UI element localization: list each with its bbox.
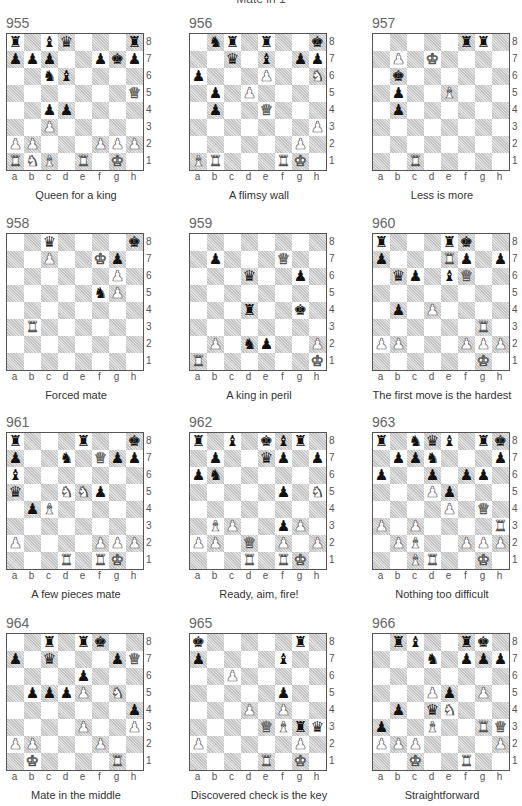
square-b4[interactable] [24, 102, 41, 119]
square-d4[interactable] [241, 102, 258, 119]
white-pawn-icon[interactable]: ♟ [111, 268, 124, 285]
square-e6[interactable] [258, 467, 275, 484]
white-pawn-icon[interactable]: ♟ [111, 535, 124, 552]
square-b2[interactable]: ♟ [24, 136, 41, 153]
black-rook-icon[interactable]: ♜ [192, 433, 205, 450]
black-queen-icon[interactable]: ♛ [226, 51, 239, 68]
square-h5[interactable] [492, 285, 509, 302]
square-c4[interactable] [41, 702, 58, 719]
square-g8[interactable] [292, 234, 309, 251]
square-e4[interactable] [75, 302, 92, 319]
square-a2[interactable]: ♟ [190, 736, 207, 753]
square-c1[interactable] [407, 353, 424, 370]
white-rook-icon[interactable]: ♜ [9, 153, 22, 170]
square-a7[interactable]: ♟ [7, 651, 24, 668]
black-rook-icon[interactable]: ♜ [260, 34, 273, 51]
square-a6[interactable]: ♟ [190, 68, 207, 85]
square-b7[interactable] [390, 651, 407, 668]
square-a8[interactable]: ♜ [190, 433, 207, 450]
square-h3[interactable]: ♟ [126, 719, 143, 736]
white-pawn-icon[interactable]: ♟ [226, 518, 239, 535]
square-b3[interactable] [390, 518, 407, 535]
square-e4[interactable]: ♟ [441, 501, 458, 518]
square-b7[interactable]: ♟ [207, 251, 224, 268]
square-b1[interactable] [207, 353, 224, 370]
black-pawn-icon[interactable]: ♟ [494, 450, 507, 467]
square-a5[interactable] [190, 285, 207, 302]
square-h6[interactable] [126, 467, 143, 484]
square-e5[interactable] [258, 484, 275, 501]
square-b4[interactable] [207, 501, 224, 518]
square-h3[interactable] [126, 319, 143, 336]
square-e3[interactable]: ♛ [258, 719, 275, 736]
square-d7[interactable] [241, 51, 258, 68]
black-pawn-icon[interactable]: ♟ [277, 450, 290, 467]
square-d1[interactable]: ♜ [241, 552, 258, 569]
square-f8[interactable] [458, 433, 475, 450]
black-pawn-icon[interactable]: ♟ [494, 651, 507, 668]
square-d7[interactable]: ♚ [424, 51, 441, 68]
square-f1[interactable]: ♜ [458, 753, 475, 770]
square-c6[interactable] [407, 467, 424, 484]
square-d7[interactable] [241, 251, 258, 268]
square-b7[interactable] [24, 251, 41, 268]
square-a4[interactable] [190, 302, 207, 319]
white-bishop-icon[interactable]: ♝ [209, 518, 222, 535]
square-g1[interactable]: ♚ [292, 753, 309, 770]
white-pawn-icon[interactable]: ♟ [477, 535, 490, 552]
white-pawn-icon[interactable]: ♟ [460, 336, 473, 353]
black-pawn-icon[interactable]: ♟ [26, 501, 39, 518]
square-f3[interactable] [92, 518, 109, 535]
square-f5[interactable] [92, 685, 109, 702]
square-f8[interactable] [92, 34, 109, 51]
black-knight-icon[interactable]: ♞ [426, 450, 439, 467]
white-rook-icon[interactable]: ♜ [409, 153, 422, 170]
square-g1[interactable]: ♚ [109, 552, 126, 569]
square-a5[interactable] [373, 285, 390, 302]
square-g6[interactable]: ♟ [109, 268, 126, 285]
square-c3[interactable]: ♟ [224, 518, 241, 535]
square-g7[interactable] [292, 450, 309, 467]
square-b4[interactable] [207, 702, 224, 719]
square-c1[interactable] [41, 753, 58, 770]
square-h6[interactable]: ♞ [309, 68, 326, 85]
square-d4[interactable]: ♜ [241, 302, 258, 319]
square-e5[interactable] [75, 85, 92, 102]
square-g6[interactable] [475, 668, 492, 685]
square-e6[interactable]: ♟ [75, 668, 92, 685]
square-f1[interactable] [458, 153, 475, 170]
white-pawn-icon[interactable]: ♟ [128, 719, 141, 736]
square-c1[interactable] [224, 353, 241, 370]
square-d4[interactable]: ♟ [424, 302, 441, 319]
square-e3[interactable] [75, 119, 92, 136]
square-e4[interactable]: ♛ [258, 102, 275, 119]
square-c4[interactable] [224, 702, 241, 719]
square-c3[interactable] [407, 319, 424, 336]
black-king-icon[interactable]: ♚ [311, 34, 324, 51]
square-d4[interactable]: ♟ [58, 102, 75, 119]
square-h1[interactable] [492, 353, 509, 370]
square-a8[interactable] [190, 234, 207, 251]
square-f3[interactable]: ♝ [275, 719, 292, 736]
square-h5[interactable] [309, 85, 326, 102]
square-g3[interactable] [109, 719, 126, 736]
square-e1[interactable] [441, 353, 458, 370]
square-g1[interactable] [475, 153, 492, 170]
white-pawn-icon[interactable]: ♟ [128, 136, 141, 153]
square-c7[interactable] [224, 450, 241, 467]
black-bishop-icon[interactable]: ♝ [277, 433, 290, 450]
square-a1[interactable]: ♝ [190, 153, 207, 170]
square-h7[interactable] [492, 51, 509, 68]
square-h1[interactable] [309, 153, 326, 170]
square-a8[interactable] [373, 634, 390, 651]
square-a3[interactable] [7, 719, 24, 736]
white-pawn-icon[interactable]: ♟ [9, 736, 22, 753]
square-b5[interactable] [390, 285, 407, 302]
square-c2[interactable] [407, 336, 424, 353]
square-g7[interactable]: ♚ [109, 51, 126, 68]
square-c7[interactable] [41, 450, 58, 467]
square-e5[interactable]: ♟ [75, 685, 92, 702]
black-rook-icon[interactable]: ♜ [375, 433, 388, 450]
black-knight-icon[interactable]: ♞ [209, 34, 222, 51]
square-d6[interactable] [424, 268, 441, 285]
